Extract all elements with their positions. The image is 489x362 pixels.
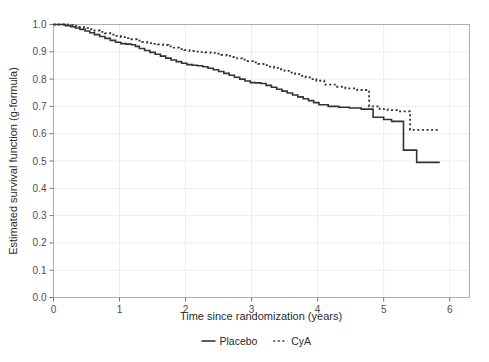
- y-tick-label: 0.6: [33, 128, 47, 139]
- y-tick-label: 1.0: [33, 19, 47, 30]
- y-tick-label: 0.0: [33, 292, 47, 303]
- figure-background: [0, 0, 489, 362]
- x-tick-label: 0: [51, 304, 57, 315]
- x-axis-title: Time since randomization (years): [180, 310, 342, 322]
- y-tick-label: 0.4: [33, 183, 47, 194]
- x-tick-label: 5: [381, 304, 387, 315]
- y-tick-label: 0.7: [33, 101, 47, 112]
- legend-label-cya: CyA: [291, 335, 311, 347]
- survival-plot-figure: 0123456 0.00.10.20.30.40.50.60.70.80.91.…: [0, 0, 489, 362]
- survival-chart: 0123456 0.00.10.20.30.40.50.60.70.80.91.…: [0, 0, 489, 362]
- y-tick-label: 0.1: [33, 265, 47, 276]
- x-tick-label: 1: [117, 304, 123, 315]
- y-tick-label: 0.3: [33, 210, 47, 221]
- y-tick-label: 0.5: [33, 156, 47, 167]
- legend-label-placebo: Placebo: [220, 335, 258, 347]
- y-tick-label: 0.2: [33, 237, 47, 248]
- y-tick-label: 0.9: [33, 46, 47, 57]
- y-tick-label: 0.8: [33, 74, 47, 85]
- x-tick-label: 6: [447, 304, 453, 315]
- y-axis-title: Estimated survival function (g-formula): [7, 67, 19, 255]
